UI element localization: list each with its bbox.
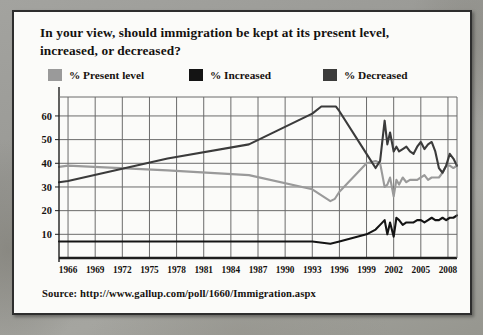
svg-text:60: 60 bbox=[42, 111, 52, 122]
svg-text:1993: 1993 bbox=[303, 265, 322, 275]
svg-text:2008: 2008 bbox=[439, 265, 458, 275]
svg-text:30: 30 bbox=[42, 182, 52, 193]
source-citation: Source: http://www.gallup.com/poll/1660/… bbox=[42, 288, 316, 299]
svg-text:1975: 1975 bbox=[140, 265, 159, 275]
x-axis-tick-labels: 1966196919721975197819811984198719901993… bbox=[59, 265, 458, 275]
plot-area: 102030405060 196619691972197519781981198… bbox=[14, 12, 474, 317]
chart-card: In your view, should immigration be kept… bbox=[12, 10, 472, 315]
y-axis-tick-labels: 102030405060 bbox=[42, 111, 59, 240]
svg-text:1999: 1999 bbox=[357, 265, 376, 275]
svg-text:1966: 1966 bbox=[59, 265, 78, 275]
line-chart: 102030405060 196619691972197519781981198… bbox=[14, 12, 474, 317]
svg-text:50: 50 bbox=[42, 134, 52, 145]
svg-text:1978: 1978 bbox=[167, 265, 186, 275]
svg-text:1969: 1969 bbox=[86, 265, 105, 275]
svg-text:2005: 2005 bbox=[412, 265, 431, 275]
svg-text:1984: 1984 bbox=[222, 265, 241, 275]
svg-text:1990: 1990 bbox=[276, 265, 295, 275]
svg-text:1987: 1987 bbox=[249, 265, 268, 275]
svg-text:2002: 2002 bbox=[384, 265, 403, 275]
svg-text:10: 10 bbox=[42, 229, 52, 240]
svg-text:1972: 1972 bbox=[113, 265, 132, 275]
svg-text:20: 20 bbox=[42, 205, 52, 216]
svg-text:1981: 1981 bbox=[194, 265, 213, 275]
svg-text:1996: 1996 bbox=[330, 265, 349, 275]
svg-text:40: 40 bbox=[42, 158, 52, 169]
